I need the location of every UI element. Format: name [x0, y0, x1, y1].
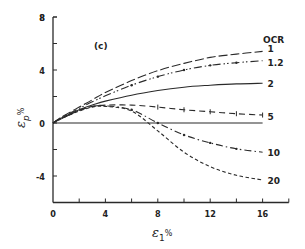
curve-ocr-2: [53, 83, 263, 123]
dot-marker: [130, 84, 132, 86]
series-label-ocr-10: 10: [268, 148, 281, 158]
x-tick-label: 8: [155, 209, 161, 219]
x-tick-label: 16: [257, 209, 269, 219]
x-tick-label: 0: [50, 209, 56, 219]
axes: -404880481216: [36, 13, 289, 219]
chart: -404880481216 ε1%εp%(c)OCR11.2251020: [0, 0, 305, 249]
dot-marker: [183, 69, 185, 71]
y-axis-title: εp%: [13, 107, 31, 128]
y-tick-label: -4: [36, 172, 45, 182]
series-label-ocr-5: 5: [268, 112, 274, 122]
dot-marker: [157, 75, 159, 77]
series-label-ocr-1: 1: [268, 44, 274, 54]
x-tick-label: 12: [205, 209, 216, 219]
dot-marker: [209, 64, 211, 66]
y-axis-unit: %: [17, 107, 26, 115]
panel-label: (c): [94, 41, 108, 51]
series-label-ocr-2: 2: [268, 79, 274, 89]
curve-ocr-1: [53, 51, 263, 123]
y-tick-label: 4: [39, 66, 45, 76]
dot-marker: [235, 148, 237, 150]
y-tick-label: 8: [39, 13, 45, 23]
dot-marker: [183, 134, 185, 136]
dot-marker: [209, 142, 211, 144]
dot-marker: [157, 122, 159, 124]
x-axis-unit: %: [165, 229, 173, 238]
series-label-ocr-20: 20: [268, 176, 281, 186]
dot-marker: [235, 62, 237, 64]
curve-ocr-10: [53, 106, 263, 153]
x-axis-title: ε1%: [152, 225, 173, 243]
curve-ocr-20: [53, 106, 263, 180]
y-tick-label: 0: [39, 119, 45, 129]
curves: [53, 51, 263, 180]
series-label-ocr-1-2: 1.2: [268, 58, 284, 68]
x-tick-label: 4: [103, 209, 109, 219]
